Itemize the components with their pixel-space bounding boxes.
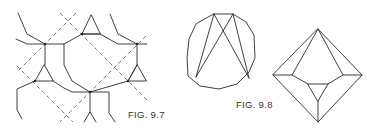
edge — [18, 13, 45, 44]
fig-9-7-drawing — [16, 13, 147, 122]
chord — [196, 14, 233, 77]
triangle — [82, 15, 100, 34]
triangle — [128, 65, 146, 81]
fig-9-8-caption: FIG. 9.8 — [236, 99, 273, 110]
edge — [84, 112, 96, 122]
fig-9-8-dodecagon — [187, 14, 255, 89]
edge — [292, 75, 308, 84]
guide-line — [60, 13, 147, 100]
edge — [53, 81, 90, 92]
dodecagon — [187, 14, 255, 89]
central-octagon — [45, 34, 137, 92]
chord — [214, 14, 249, 78]
outer-diamond — [273, 29, 362, 122]
edge — [17, 81, 35, 119]
inner-triangle — [308, 84, 328, 101]
edge — [328, 75, 343, 84]
guide-line — [17, 66, 73, 122]
fig-9-7-caption: FIG. 9.7 — [128, 109, 165, 120]
fig-9-8-polyhedron — [273, 29, 362, 122]
triangle — [35, 65, 53, 81]
node — [89, 91, 91, 93]
node — [34, 80, 36, 82]
node — [81, 33, 83, 35]
node — [44, 43, 46, 45]
chord — [196, 14, 214, 77]
edge — [273, 29, 362, 75]
figure-canvas — [0, 0, 374, 132]
node — [136, 43, 138, 45]
edge — [110, 14, 137, 44]
node — [127, 80, 129, 82]
